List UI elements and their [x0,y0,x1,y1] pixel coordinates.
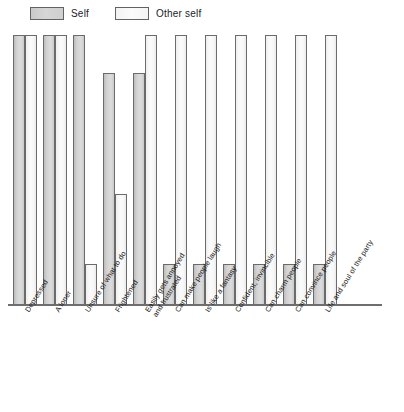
bar-group [43,35,73,304]
x-axis-labels: DepressedA lonerUnsure of what to doFrig… [13,309,373,409]
bar-group [13,35,43,304]
legend-item-self: Self [30,7,89,20]
plot-area [13,35,373,304]
bar-self [43,35,55,304]
bar-self [13,35,25,304]
bar-other [25,35,37,304]
legend-swatch-other-self-icon [115,7,149,20]
bar-group [223,35,253,304]
bar-self [133,73,145,304]
bar-other [235,35,247,304]
chart-legend: Self Other self [30,4,201,22]
bar-group [73,35,103,304]
legend-swatch-self-icon [30,7,64,20]
bar-other [145,35,157,304]
bar-chart: Self Other self DepressedA lonerUnsure o… [0,0,404,412]
bar-self [73,35,85,304]
legend-label-other-self: Other self [156,8,201,19]
legend-item-other-self: Other self [115,7,201,20]
bar-groups [13,35,373,304]
legend-label-self: Self [71,8,89,19]
bar-group [133,35,163,304]
bar-other [55,35,67,304]
